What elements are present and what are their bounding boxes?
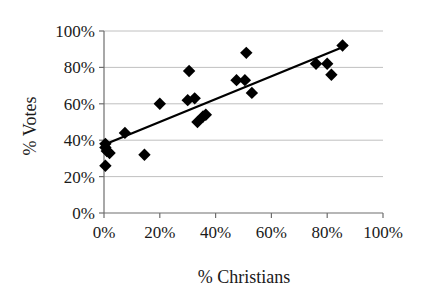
chart-svg: 0%20%40%60%80%100% 0%20%40%60%80%100% % … (0, 0, 423, 297)
y-tick-label: 80% (64, 58, 95, 77)
x-tick-label: 0% (93, 223, 116, 242)
x-tick-label: 40% (200, 223, 231, 242)
y-tick-label: 60% (64, 95, 95, 114)
y-tick-label: 0% (72, 204, 95, 223)
x-tick-label: 60% (256, 223, 287, 242)
x-tick-label: 80% (312, 223, 343, 242)
scatter-chart-figure: 0%20%40%60%80%100% 0%20%40%60%80%100% % … (0, 0, 423, 297)
x-tick-label: 100% (363, 223, 403, 242)
y-tick-label: 20% (64, 168, 95, 187)
x-tick-label: 20% (144, 223, 175, 242)
y-tick-label: 40% (64, 131, 95, 150)
x-axis-title: % Christians (198, 267, 291, 287)
y-tick-label: 100% (55, 22, 95, 41)
y-axis-title: % Votes (20, 97, 40, 156)
